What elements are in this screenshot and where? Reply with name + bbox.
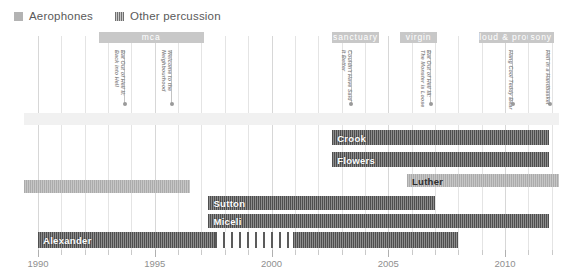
album-title: Hell in a Handbasket (545, 50, 551, 105)
legend-item-other-percussion: Other percussion (115, 10, 221, 22)
record-label-chip: loud & proud (479, 32, 528, 43)
record-label-chip: sanctuary (332, 32, 379, 43)
axis-tick (388, 250, 389, 257)
legend-swatch-icon (115, 12, 124, 21)
axis-tick (85, 250, 86, 255)
legend-item-aerophones: Aerophones (14, 10, 93, 22)
album-title-line2: Neighbourhood (161, 50, 167, 91)
axis-tick (131, 250, 132, 255)
axis-tick (342, 250, 343, 255)
axis-tick-label: 2000 (261, 258, 282, 269)
axis-tick-label: 2005 (378, 258, 399, 269)
axis-tick (178, 250, 179, 255)
album-title: Bat Out of Hell III:The Monster is Loose (420, 50, 432, 107)
timeline-bar-row[interactable]: Crook (0, 130, 568, 145)
axis-tick (365, 250, 366, 255)
axis-tick-label: 1990 (27, 258, 48, 269)
record-label-chip: mca (99, 32, 204, 43)
album-title-line2: Back into Hell (114, 50, 120, 96)
bar-segment (24, 113, 559, 125)
legend-label: Other percussion (130, 10, 221, 22)
legend-label: Aerophones (29, 10, 93, 22)
axis-tick (225, 250, 226, 255)
album-title: Hang Cool Teddy Bear (508, 50, 514, 110)
legend: Aerophones Other percussion (14, 10, 221, 22)
axis-tick (318, 250, 319, 255)
axis-tick (201, 250, 202, 255)
timeline-bar-row[interactable]: Flowers (0, 152, 568, 167)
album-dot-icon (170, 102, 174, 106)
bar-segment (293, 232, 459, 248)
bar-segment (215, 232, 292, 248)
axis-tick-label: 1995 (144, 258, 165, 269)
axis-tick (272, 250, 273, 257)
axis-tick (435, 250, 436, 255)
album-title: Bat Out of Hell II:Back into Hell (114, 50, 126, 96)
x-axis: 19901995200020052010 (0, 250, 568, 275)
axis-tick (482, 250, 483, 255)
bar-label: Flowers (337, 154, 375, 165)
bar-label: Miceli (213, 216, 241, 227)
axis-tick (155, 250, 156, 257)
axis-tick-label: 2010 (494, 258, 515, 269)
album-title-line2: It Better (341, 50, 347, 101)
bar-label: Alexander (43, 235, 92, 246)
axis-tick (528, 250, 529, 255)
timeline-bar-row[interactable]: Alexander (0, 232, 568, 248)
record-label-chip: sony (528, 32, 554, 43)
album-title-line2: The Monster is Loose (420, 50, 426, 107)
timeline-bar-row[interactable]: Miceli (0, 214, 568, 228)
axis-tick (108, 250, 109, 255)
background-band (0, 113, 568, 125)
bar-segment (208, 214, 549, 228)
bar-segment (24, 180, 190, 193)
album-dot-icon (123, 102, 127, 106)
bar-label: Crook (337, 132, 366, 143)
axis-tick (61, 250, 62, 255)
timeline-bar-row[interactable]: Sutton (0, 196, 568, 210)
bar-label: Sutton (213, 198, 245, 209)
axis-tick (248, 250, 249, 255)
axis-tick (505, 250, 506, 257)
axis-tick (295, 250, 296, 255)
legend-swatch-icon (14, 12, 23, 21)
record-label-chip: virgin (400, 32, 437, 43)
album-title: Welcome to theNeighbourhood (161, 50, 173, 91)
bar-label: Luther (412, 175, 443, 186)
axis-tick (412, 250, 413, 255)
timeline-chart: mcasanctuaryvirginloud & proudsony Bat O… (0, 0, 568, 275)
album-title: Couldn't Have SaidIt Better (341, 50, 353, 101)
album-dot-icon (349, 102, 353, 106)
axis-tick (38, 250, 39, 257)
background-band (0, 180, 568, 193)
axis-tick (458, 250, 459, 255)
axis-tick (552, 250, 553, 255)
